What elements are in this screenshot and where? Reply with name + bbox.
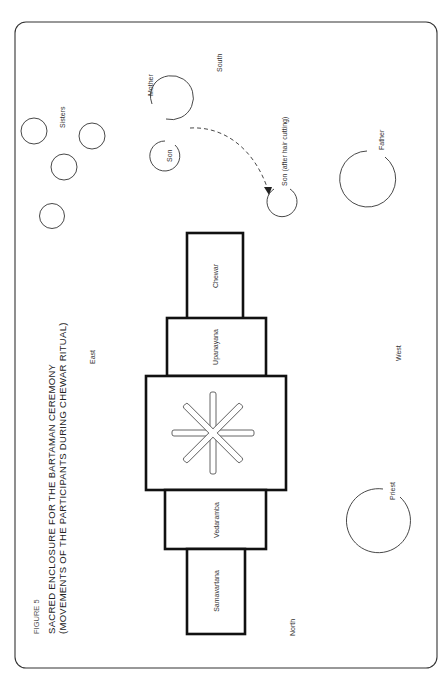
mother-circle xyxy=(155,76,193,120)
figure-title: SACRED ENCLOSURE FOR THE BARTAMAN CEREMO… xyxy=(46,363,57,634)
sister-circle xyxy=(51,154,77,180)
figure-number: FIGURE 5 xyxy=(32,599,41,634)
sacred-enclosure: Chewar Upanayana Vedaramba Samavartana xyxy=(146,233,286,634)
son-after-group: Son (after hair cutting) xyxy=(267,117,297,217)
vedaramba-label: Vedaramba xyxy=(213,502,220,538)
son-after-circle xyxy=(267,189,297,217)
sister-circle xyxy=(79,123,105,149)
east-label: East xyxy=(89,350,96,364)
south-label: South xyxy=(216,54,223,72)
mother-group: Mother xyxy=(147,74,193,120)
bartaman-ceremony-diagram: Sisters South Mother Son Son (after hair… xyxy=(0,0,446,683)
son-group: Son xyxy=(150,141,180,171)
sisters-label: Sisters xyxy=(59,106,66,128)
figure-subtitle: (MOVEMENTS OF THE PARTICIPANTS DURING CH… xyxy=(57,322,68,634)
west-label: West xyxy=(395,345,402,361)
north-label: North xyxy=(289,619,296,636)
father-label: Father xyxy=(378,129,385,150)
father-group: Father xyxy=(340,129,396,207)
samavartana-label: Samavartana xyxy=(213,570,220,612)
son-after-label: Son (after hair cutting) xyxy=(281,117,289,186)
priest-group: Priest xyxy=(346,482,410,553)
priest-circle xyxy=(346,489,410,553)
sister-circle xyxy=(40,204,65,229)
upanayana-label: Upanayana xyxy=(212,329,220,365)
sisters-group: Sisters xyxy=(21,106,105,228)
mother-label: Mother xyxy=(147,74,154,96)
sister-circle xyxy=(21,118,47,144)
father-circle xyxy=(340,151,396,207)
chewar-label: Chewar xyxy=(212,263,219,288)
figure-caption: FIGURE 5 SACRED ENCLOSURE FOR THE BARTAM… xyxy=(32,322,68,634)
priest-label: Priest xyxy=(389,482,396,500)
son-circle xyxy=(150,141,180,171)
movement-arrow xyxy=(190,128,272,195)
son-label: Son xyxy=(166,149,173,162)
